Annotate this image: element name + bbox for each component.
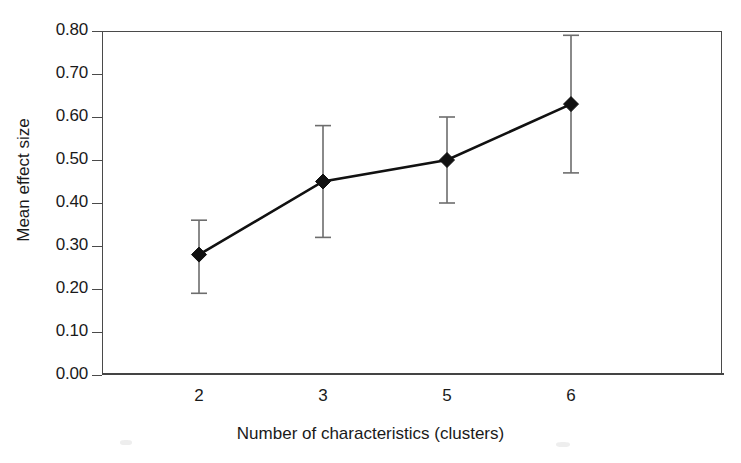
y-axis-tick-label-text: 0.60 <box>28 106 88 126</box>
y-axis-tick-label-text: 0.30 <box>28 235 88 255</box>
y-axis-tick <box>92 31 102 32</box>
y-axis-tick-label-text: 0.00 <box>28 364 88 384</box>
y-axis-tick-label: 0.50 <box>20 149 88 169</box>
y-axis-tick-label: 0.40 <box>20 192 88 212</box>
y-axis-tick <box>92 375 102 376</box>
y-axis-tick-label-text: 0.70 <box>28 63 88 83</box>
y-axis-tick-label-text: 0.40 <box>28 192 88 212</box>
y-axis-tick <box>92 246 102 247</box>
y-axis-tick-label: 0.20 <box>20 278 88 298</box>
x-axis-tick-label: 5 <box>417 386 477 406</box>
y-axis-tick <box>92 160 102 161</box>
y-axis-tick-label: 0.70 <box>20 63 88 83</box>
y-axis-tick <box>92 117 102 118</box>
y-axis-tick-label: 0.10 <box>20 321 88 341</box>
x-axis-tick-label: 2 <box>169 386 229 406</box>
y-axis-tick-label: 0.30 <box>20 235 88 255</box>
y-axis-tick-label-text: 0.80 <box>28 20 88 40</box>
y-axis-tick <box>92 74 102 75</box>
y-axis-tick-label: 0.60 <box>20 106 88 126</box>
y-axis-tick <box>92 289 102 290</box>
y-axis-tick <box>92 203 102 204</box>
y-axis-title: Mean effect size <box>14 70 34 290</box>
x-axis-line <box>102 373 724 375</box>
y-axis-tick-label-text: 0.50 <box>28 149 88 169</box>
y-axis-tick-label-text: 0.10 <box>28 321 88 341</box>
x-axis-tick-label: 6 <box>541 386 601 406</box>
y-axis-tick-label-text: 0.20 <box>28 278 88 298</box>
chart-page: Mean effect size 0.000.100.200.300.400.5… <box>0 0 741 463</box>
x-axis-title: Number of characteristics (clusters) <box>0 424 741 444</box>
y-axis-tick-label: 0.80 <box>20 20 88 40</box>
y-axis-tick-label: 0.00 <box>20 364 88 384</box>
plot-area <box>102 31 722 375</box>
x-axis-tick-label: 3 <box>293 386 353 406</box>
y-axis-tick <box>92 332 102 333</box>
